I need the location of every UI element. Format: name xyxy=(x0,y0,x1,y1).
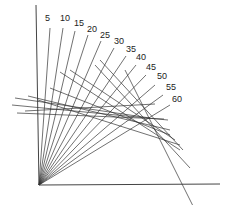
angle-label: 50 xyxy=(157,71,167,81)
envelope-diagram: 51015202530354045505560 xyxy=(0,0,232,205)
angle-label: 55 xyxy=(166,82,176,92)
ray-50 xyxy=(39,85,155,185)
angle-label: 30 xyxy=(114,36,124,46)
angle-label: 45 xyxy=(146,62,156,72)
angle-label: 15 xyxy=(74,18,84,28)
cross-line xyxy=(100,60,183,150)
angle-label: 5 xyxy=(45,13,50,23)
angle-labels: 51015202530354045505560 xyxy=(45,13,182,104)
axes xyxy=(36,5,220,185)
ray-60 xyxy=(39,105,170,185)
angle-label: 10 xyxy=(60,13,70,23)
vertical-axis xyxy=(36,5,39,185)
angle-label: 60 xyxy=(172,94,182,104)
angle-label: 20 xyxy=(87,24,97,34)
cross-line xyxy=(50,88,170,135)
angle-label: 35 xyxy=(126,44,136,54)
ray-35 xyxy=(39,56,126,185)
angle-label: 40 xyxy=(136,52,146,62)
horizontal-axis xyxy=(39,184,220,185)
angle-label: 25 xyxy=(100,30,110,40)
ray-45 xyxy=(39,75,146,185)
